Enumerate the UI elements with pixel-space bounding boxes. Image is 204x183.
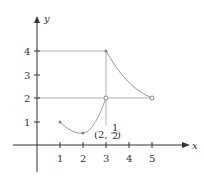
point-closed bbox=[82, 132, 85, 135]
svg-text:(2,: (2, bbox=[94, 129, 107, 140]
x-axis-label: x bbox=[192, 140, 198, 151]
point-closed bbox=[104, 49, 107, 52]
point-closed bbox=[59, 121, 62, 124]
y-tick-label: 4 bbox=[24, 46, 30, 57]
y-tick-label: 1 bbox=[24, 117, 30, 128]
y-axis-arrow-icon bbox=[34, 16, 40, 23]
x-tick-label: 1 bbox=[57, 153, 63, 164]
y-axis-label: y bbox=[43, 13, 50, 24]
curve-left bbox=[60, 98, 106, 133]
x-tick-label: 2 bbox=[80, 153, 86, 164]
y-tick-label: 3 bbox=[24, 70, 30, 81]
x-tick-label: 3 bbox=[103, 153, 109, 164]
point-annotation: (2, 1 2 ) bbox=[94, 122, 121, 141]
svg-text:): ) bbox=[117, 129, 121, 140]
point-open bbox=[150, 96, 154, 100]
curve-right bbox=[106, 51, 152, 98]
point-open bbox=[104, 96, 108, 100]
x-axis-arrow-icon bbox=[182, 142, 190, 148]
x-tick-label: 5 bbox=[149, 153, 155, 164]
chart: x y 1 2 3 4 5 4 3 2 1 (2, 1 2 ) bbox=[0, 0, 204, 183]
x-tick-label: 4 bbox=[126, 153, 132, 164]
y-tick-label: 2 bbox=[24, 93, 30, 104]
